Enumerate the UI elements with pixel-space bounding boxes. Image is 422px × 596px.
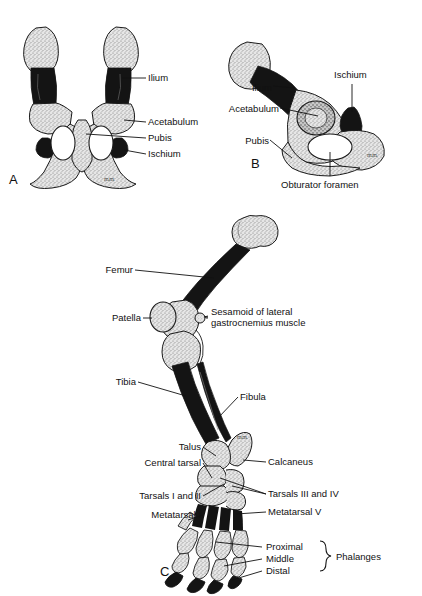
label-obturator-foramen-b: Obturator foramen bbox=[281, 180, 359, 191]
artist-signature-c: m.m. bbox=[237, 434, 247, 440]
panel-a-drawing bbox=[24, 27, 146, 189]
label-patella: Patella bbox=[112, 313, 141, 324]
label-femur: Femur bbox=[106, 265, 133, 276]
label-pubis-b: Pubis bbox=[245, 136, 269, 147]
label-calcaneus: Calcaneus bbox=[268, 457, 313, 468]
label-ischium-b: Ischium bbox=[334, 70, 367, 81]
label-tarsals-1-2: Tarsals I and II bbox=[139, 491, 201, 502]
panel-letter-a: A bbox=[9, 172, 18, 187]
label-proximal: Proximal bbox=[266, 542, 303, 553]
label-phalanges: Phalanges bbox=[336, 551, 381, 562]
panel-c-drawing bbox=[135, 215, 331, 593]
label-sesamoid-line1: Sesamoid of lateral bbox=[211, 307, 292, 318]
panel-letter-b: B bbox=[251, 156, 260, 171]
label-distal: Distal bbox=[266, 566, 290, 577]
panel-letter-c: C bbox=[160, 564, 169, 579]
label-pubis-a: Pubis bbox=[148, 133, 172, 144]
artist-signature-b: m.m. bbox=[367, 152, 377, 158]
label-acetabulum-a: Acetabulum bbox=[148, 117, 198, 128]
label-fibula: Fibula bbox=[240, 392, 266, 403]
label-tibia: Tibia bbox=[116, 377, 136, 388]
label-metatarsal-1: Metatarsal I bbox=[151, 510, 201, 521]
artist-signature-a: m.m. bbox=[104, 176, 114, 182]
label-metatarsal-5: Metatarsal V bbox=[268, 507, 321, 518]
label-tarsals-3-4: Tarsals III and IV bbox=[268, 489, 339, 500]
label-ilium-b: Ilium bbox=[252, 83, 272, 94]
label-sesamoid-line2: gastrocnemius muscle bbox=[211, 318, 306, 329]
label-ischium-a: Ischium bbox=[148, 149, 181, 160]
label-talus: Talus bbox=[179, 442, 201, 453]
anatomy-figure bbox=[0, 0, 422, 596]
label-central-tarsal: Central tarsal bbox=[145, 458, 202, 469]
label-middle: Middle bbox=[266, 554, 294, 565]
label-acetabulum-b: Acetabulum bbox=[229, 104, 279, 115]
label-ilium-a: Ilium bbox=[148, 73, 168, 84]
